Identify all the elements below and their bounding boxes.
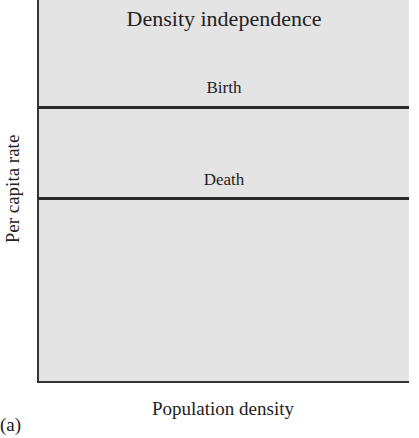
death-line-label: Death bbox=[39, 170, 409, 190]
plot-area: Density independence Birth Death bbox=[37, 0, 409, 383]
birth-rate-line bbox=[39, 106, 409, 109]
y-axis-label: Per capita rate bbox=[2, 114, 24, 264]
x-axis-label: Population density bbox=[37, 398, 409, 420]
death-rate-line bbox=[39, 197, 409, 200]
panel-label: (a) bbox=[0, 414, 21, 436]
chart-title: Density independence bbox=[39, 6, 409, 32]
birth-line-label: Birth bbox=[39, 78, 409, 98]
